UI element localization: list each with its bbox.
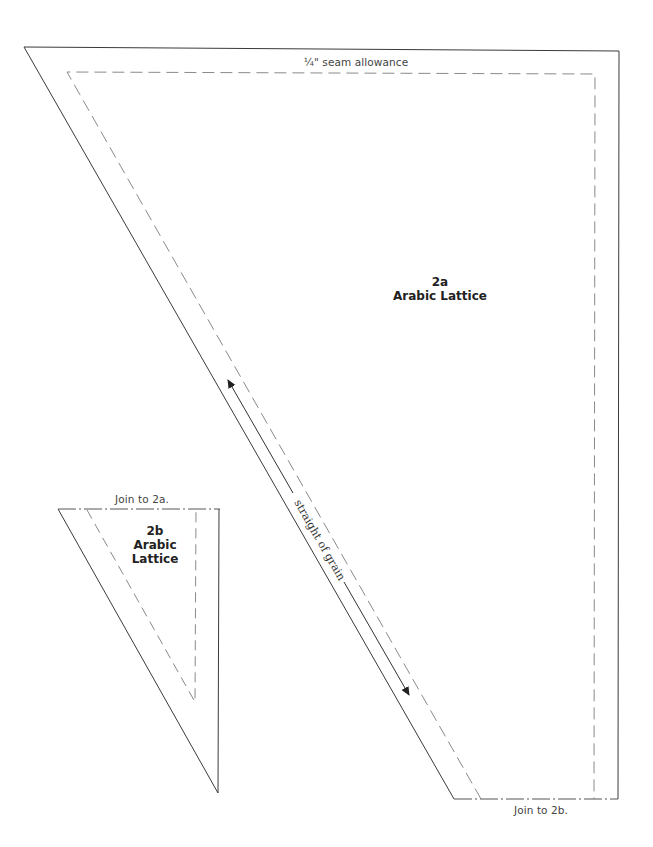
grain-arrow-line-upper xyxy=(228,380,293,493)
piece-2a-join-label: Join to 2b. xyxy=(486,804,596,816)
piece-2b-id: 2b xyxy=(115,524,195,538)
piece-2a-seam-line xyxy=(67,72,595,799)
piece-2b-name-line2: Lattice xyxy=(115,552,195,566)
piece-2a-outer-cut-line xyxy=(24,47,619,799)
piece-2a-id: 2a xyxy=(380,275,500,289)
pattern-drawing xyxy=(0,0,653,847)
piece-2b-title: 2b Arabic Lattice xyxy=(115,524,195,566)
piece-2b-join-label: Join to 2a. xyxy=(92,493,192,505)
piece-2a-name: Arabic Lattice xyxy=(380,289,500,303)
piece-2a xyxy=(24,47,619,799)
grain-arrow-line-lower xyxy=(344,582,409,695)
seam-allowance-label: ¼" seam allowance xyxy=(256,56,456,68)
piece-2b-name-line1: Arabic xyxy=(115,538,195,552)
piece-2a-title: 2a Arabic Lattice xyxy=(380,275,500,303)
